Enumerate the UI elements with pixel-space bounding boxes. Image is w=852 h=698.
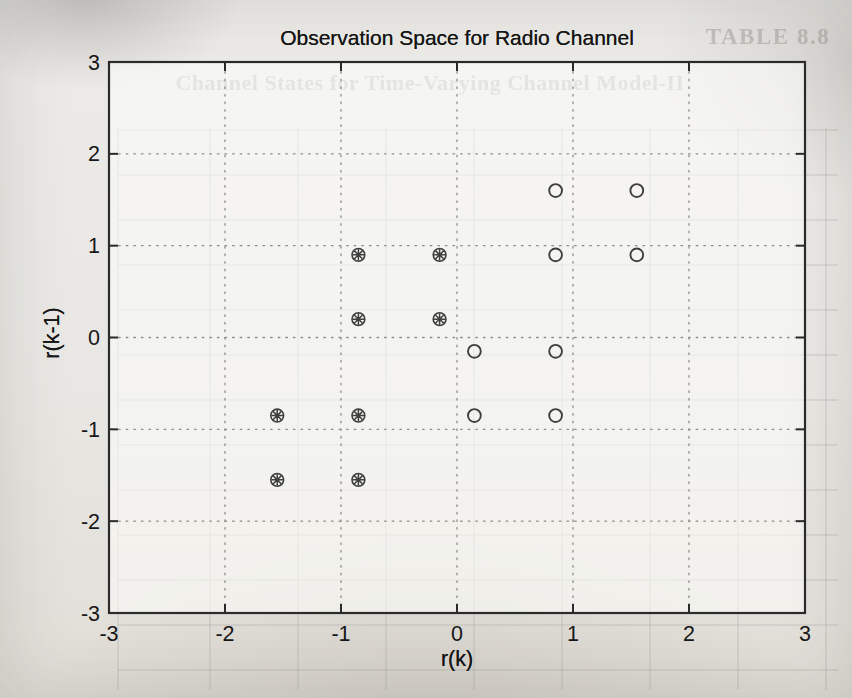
y-tick-label: 2 bbox=[88, 142, 100, 166]
marker-circled-asterisk bbox=[271, 409, 284, 422]
y-tick-label: 0 bbox=[88, 326, 100, 350]
y-tick-label: -3 bbox=[81, 602, 100, 626]
x-tick-label: -3 bbox=[99, 622, 118, 646]
chart-title: Observation Space for Radio Channel bbox=[109, 26, 805, 50]
x-tick-label: 0 bbox=[451, 622, 463, 646]
x-tick-label: -1 bbox=[331, 622, 350, 646]
x-tick-label: 2 bbox=[683, 622, 695, 646]
marker-circled-asterisk bbox=[352, 313, 365, 326]
x-tick-label: -2 bbox=[215, 622, 234, 646]
marker-circled-asterisk bbox=[352, 473, 365, 486]
marker-circled-asterisk bbox=[271, 473, 284, 486]
x-tick-label: 3 bbox=[799, 622, 811, 646]
y-tick-label: 3 bbox=[88, 51, 100, 75]
marker-circled-asterisk bbox=[352, 248, 365, 261]
y-tick-label: -1 bbox=[81, 418, 100, 442]
marker-circled-asterisk bbox=[433, 248, 446, 261]
y-tick-label: -2 bbox=[81, 510, 100, 534]
plot-canvas: -3-2-10123-3-2-10123 bbox=[0, 0, 852, 698]
y-axis-label: r(k-1) bbox=[40, 307, 65, 358]
y-tick-label: 1 bbox=[88, 234, 100, 258]
x-tick-label: 1 bbox=[567, 622, 579, 646]
marker-circled-asterisk bbox=[433, 313, 446, 326]
scanned-page: TABLE 8.8 Channel States for Time-Varyin… bbox=[0, 0, 852, 698]
marker-circled-asterisk bbox=[352, 409, 365, 422]
x-axis-label: r(k) bbox=[109, 647, 805, 672]
